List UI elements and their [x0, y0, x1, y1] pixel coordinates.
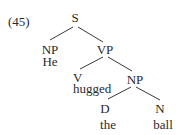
branch-np-d: [108, 87, 131, 99]
node-d: D: [100, 102, 109, 115]
node-n: N: [155, 102, 164, 115]
node-np-object: NP: [127, 73, 144, 86]
branch-s-vp: [78, 27, 103, 42]
branch-vp-np: [108, 57, 132, 71]
word-ball: ball: [153, 118, 173, 131]
node-s: S: [71, 11, 78, 24]
syntax-tree-diagram: (45) S NP He VP V hugged NP D the N ball: [0, 0, 181, 135]
node-vp: VP: [97, 43, 114, 56]
branch-s-np: [50, 27, 73, 40]
branch-np-n: [136, 87, 160, 100]
word-hugged: hugged: [73, 82, 111, 95]
word-the: the: [100, 118, 116, 131]
example-number: (45): [8, 15, 30, 28]
branch-vp-v: [80, 57, 103, 69]
word-he: He: [42, 55, 57, 68]
